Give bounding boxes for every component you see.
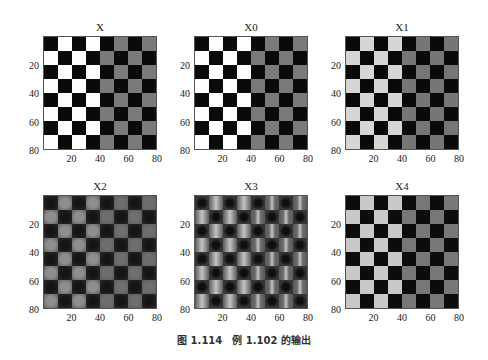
checkerboard-image (43, 195, 157, 309)
x-tick-label: 40 (246, 153, 256, 164)
x-tick-label: 60 (275, 312, 285, 323)
image-cell (279, 294, 293, 308)
image-cell (402, 79, 416, 93)
image-cell (195, 294, 209, 308)
image-cell (72, 210, 86, 224)
image-cell (388, 51, 402, 65)
image-cell (293, 135, 307, 149)
image-cell (114, 238, 128, 252)
image-cell (223, 51, 237, 65)
image-cell (209, 266, 223, 280)
image-cell (416, 79, 430, 93)
image-cell (86, 65, 100, 79)
image-cell (58, 280, 72, 294)
image-cell (86, 93, 100, 107)
image-cell (293, 79, 307, 93)
image-cell (86, 280, 100, 294)
image-cell (251, 196, 265, 210)
image-cell (360, 51, 374, 65)
y-tick-label: 20 (180, 59, 190, 70)
x-tick-label: 20 (369, 312, 379, 323)
image-cell (293, 224, 307, 238)
image-cell (444, 121, 458, 135)
image-cell (293, 238, 307, 252)
panel-x4: X42040608020406080 (345, 195, 459, 309)
image-cell (72, 196, 86, 210)
image-cell (114, 93, 128, 107)
image-cell (86, 266, 100, 280)
image-cell (58, 224, 72, 238)
image-cell (72, 93, 86, 107)
y-tick-label: 60 (29, 116, 39, 127)
x-tick-label: 20 (369, 153, 379, 164)
image-cell (416, 196, 430, 210)
y-tick-label: 80 (180, 145, 190, 156)
image-cell (251, 280, 265, 294)
image-cell (430, 79, 444, 93)
image-cell (44, 224, 58, 238)
image-cell (100, 121, 114, 135)
image-cell (374, 210, 388, 224)
image-cell (72, 266, 86, 280)
image-cell (402, 121, 416, 135)
image-cell (360, 121, 374, 135)
image-cell (237, 107, 251, 121)
image-cell (100, 93, 114, 107)
image-cell (128, 121, 142, 135)
image-cell (360, 252, 374, 266)
image-cell (279, 252, 293, 266)
x-tick-label: 80 (303, 312, 313, 323)
image-cell (416, 266, 430, 280)
image-cell (209, 51, 223, 65)
checkerboard-image (345, 195, 459, 309)
image-cell (209, 37, 223, 51)
image-cell (142, 93, 156, 107)
image-cell (44, 65, 58, 79)
image-cell (114, 280, 128, 294)
checkerboard-image (43, 36, 157, 150)
image-cell (114, 224, 128, 238)
panel-x2: X22040608020406080 (43, 195, 157, 309)
image-cell (114, 65, 128, 79)
image-cell (128, 210, 142, 224)
image-cell (346, 294, 360, 308)
image-cell (128, 79, 142, 93)
image-cell (100, 79, 114, 93)
image-cell (251, 238, 265, 252)
image-cell (388, 65, 402, 79)
image-cell (374, 65, 388, 79)
panel-x1: X12040608020406080 (345, 36, 459, 150)
x-tick-label: 60 (426, 153, 436, 164)
image-cell (44, 79, 58, 93)
image-cell (100, 37, 114, 51)
image-cell (279, 79, 293, 93)
image-cell (360, 294, 374, 308)
image-cell (223, 121, 237, 135)
image-cell (114, 79, 128, 93)
image-cell (128, 107, 142, 121)
image-cell (444, 266, 458, 280)
image-cell (251, 224, 265, 238)
image-cell (430, 294, 444, 308)
image-cell (360, 266, 374, 280)
image-cell (416, 224, 430, 238)
image-cell (237, 93, 251, 107)
image-cell (388, 210, 402, 224)
image-cell (374, 51, 388, 65)
image-cell (195, 135, 209, 149)
image-cell (444, 51, 458, 65)
image-cell (251, 107, 265, 121)
image-cell (100, 135, 114, 149)
image-cell (223, 210, 237, 224)
image-cell (58, 294, 72, 308)
panel-title: X1 (345, 21, 459, 33)
image-cell (444, 238, 458, 252)
image-cell (142, 196, 156, 210)
x-tick-label: 20 (67, 153, 77, 164)
image-cell (430, 65, 444, 79)
checkerboard-image (194, 195, 308, 309)
image-cell (223, 224, 237, 238)
panel-title: X4 (345, 180, 459, 192)
image-cell (114, 294, 128, 308)
image-cell (114, 252, 128, 266)
